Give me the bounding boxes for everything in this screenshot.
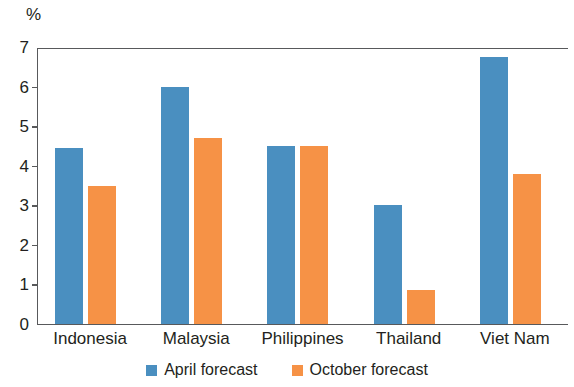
legend-swatch-icon bbox=[146, 365, 157, 376]
y-axis-tick-label: 3 bbox=[20, 197, 29, 214]
x-axis-label-malaysia: Malaysia bbox=[163, 328, 230, 351]
bar-group bbox=[144, 49, 250, 324]
bar-group bbox=[463, 49, 569, 324]
bars-layer bbox=[38, 49, 568, 324]
bar bbox=[300, 146, 328, 324]
bar bbox=[513, 174, 541, 324]
bar bbox=[88, 186, 116, 325]
y-axis-unit-label: % bbox=[26, 6, 41, 23]
bar bbox=[407, 290, 435, 324]
y-axis-tick-label: 2 bbox=[20, 236, 29, 253]
y-axis-tick-label: 4 bbox=[20, 157, 29, 174]
y-axis-tick-label: 1 bbox=[20, 276, 29, 293]
legend-item[interactable]: April forecast bbox=[146, 362, 257, 378]
y-axis-tick-label: 7 bbox=[20, 39, 29, 56]
bar bbox=[374, 205, 402, 324]
legend-item[interactable]: October forecast bbox=[292, 362, 428, 378]
bar bbox=[194, 138, 222, 324]
bar bbox=[267, 146, 295, 324]
plot-area: 01234567 bbox=[37, 48, 568, 325]
legend-label: April forecast bbox=[164, 362, 257, 378]
bar-group bbox=[38, 49, 144, 324]
bar bbox=[161, 87, 189, 324]
legend-label: October forecast bbox=[310, 362, 428, 378]
y-axis-tick-label: 5 bbox=[20, 118, 29, 135]
bar-chart-figure: % 01234567 IndonesiaMalaysiaPhilippinesT… bbox=[0, 0, 574, 387]
bar bbox=[55, 148, 83, 324]
bar-group bbox=[357, 49, 463, 324]
x-axis-label-thailand: Thailand bbox=[376, 328, 441, 351]
x-axis-category-labels: IndonesiaMalaysiaPhilippinesThailandViet… bbox=[37, 328, 568, 354]
x-axis-label-philippines: Philippines bbox=[261, 328, 343, 351]
y-axis-tick-label: 0 bbox=[20, 316, 29, 333]
bar bbox=[480, 57, 508, 324]
chart-legend: April forecastOctober forecast bbox=[0, 362, 574, 378]
legend-swatch-icon bbox=[292, 365, 303, 376]
y-axis-tick-label: 6 bbox=[20, 78, 29, 95]
x-axis-label-viet-nam: Viet Nam bbox=[480, 328, 550, 351]
x-axis-label-indonesia: Indonesia bbox=[53, 328, 127, 351]
bar-group bbox=[250, 49, 356, 324]
